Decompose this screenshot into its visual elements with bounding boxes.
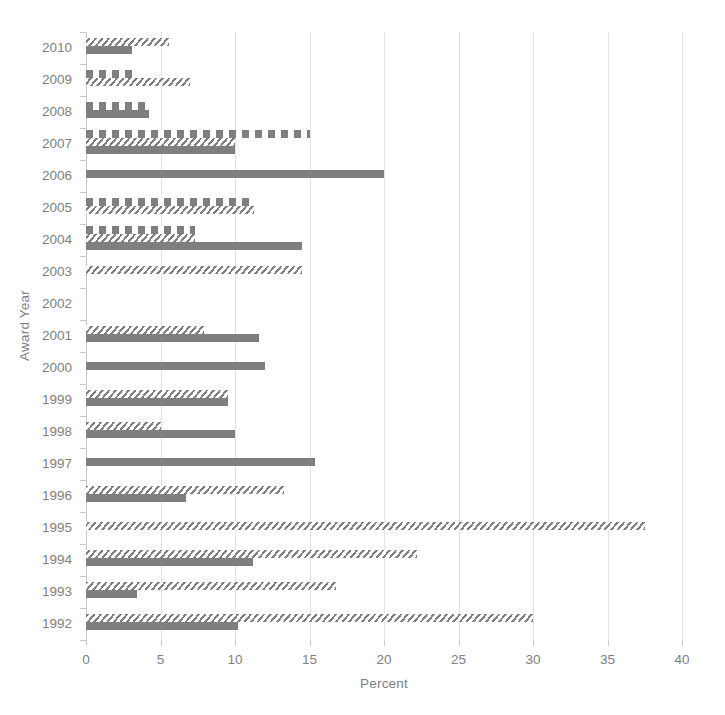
plot-area: 0510152025303540 20102009200820072006200…: [86, 32, 682, 640]
bar-2004-series-3: [86, 242, 302, 250]
y-tick-label-2006: 2006: [0, 169, 72, 183]
y-tick-label-1993: 1993: [0, 585, 72, 599]
bar-2010-series-3: [86, 46, 132, 54]
y-tick-label-2008: 2008: [0, 105, 72, 119]
cut-off-caption: [0, 700, 725, 715]
y-tick-mark: [80, 576, 86, 577]
y-tick-label-1995: 1995: [0, 521, 72, 535]
bar-1992-series-3: [86, 622, 238, 630]
x-tick-label: 20: [364, 652, 404, 667]
x-tick-label: 0: [66, 652, 106, 667]
bar-2006-series-3: [86, 170, 384, 178]
y-tick-label-2002: 2002: [0, 297, 72, 311]
x-tick-mark: [608, 640, 609, 646]
gridline: [682, 32, 683, 640]
bar-2000-series-3: [86, 362, 265, 370]
y-tick-mark: [80, 320, 86, 321]
bar-1998-series-3: [86, 430, 235, 438]
x-tick-mark: [161, 640, 162, 646]
y-tick-label-1997: 1997: [0, 457, 72, 471]
bar-2009-series-1: [86, 70, 138, 78]
y-tick-mark: [80, 32, 86, 33]
x-tick-label: 30: [513, 652, 553, 667]
y-tick-mark: [80, 608, 86, 609]
x-tick-mark: [310, 640, 311, 646]
x-tick-mark: [682, 640, 683, 646]
y-tick-mark: [80, 128, 86, 129]
bar-2004-series-2: [86, 234, 195, 242]
bar-1994-series-3: [86, 558, 253, 566]
y-tick-label-2000: 2000: [0, 361, 72, 375]
x-tick-label: 35: [588, 652, 628, 667]
y-tick-mark: [80, 384, 86, 385]
x-tick-label: 25: [439, 652, 479, 667]
y-tick-label-1994: 1994: [0, 553, 72, 567]
bar-1995-series-2: [86, 522, 645, 530]
bar-1996-series-3: [86, 494, 186, 502]
y-tick-mark: [80, 352, 86, 353]
bar-1993-series-2: [86, 582, 336, 590]
gridline: [608, 32, 609, 640]
gridline: [384, 32, 385, 640]
y-tick-mark: [80, 512, 86, 513]
y-tick-label-1999: 1999: [0, 393, 72, 407]
y-tick-label-1998: 1998: [0, 425, 72, 439]
bar-2007-series-2: [86, 138, 235, 146]
y-tick-label-2003: 2003: [0, 265, 72, 279]
y-tick-mark: [80, 544, 86, 545]
y-tick-label-2010: 2010: [0, 41, 72, 55]
y-tick-label-2004: 2004: [0, 233, 72, 247]
y-tick-mark: [80, 480, 86, 481]
x-tick-label: 10: [215, 652, 255, 667]
bar-1998-series-2: [86, 422, 161, 430]
bar-1999-series-2: [86, 390, 228, 398]
bar-1997-series-3: [86, 458, 315, 466]
y-tick-label-1992: 1992: [0, 617, 72, 631]
y-tick-label-2009: 2009: [0, 73, 72, 87]
bar-2007-series-3: [86, 146, 235, 154]
x-tick-mark: [86, 640, 87, 646]
bar-2010-series-2: [86, 38, 169, 46]
x-tick-mark: [384, 640, 385, 646]
y-tick-label-2005: 2005: [0, 201, 72, 215]
x-tick-mark: [459, 640, 460, 646]
bar-2003-series-2: [86, 266, 302, 274]
y-tick-label-1996: 1996: [0, 489, 72, 503]
bar-chart: Award Year Percent 0510152025303540 2010…: [0, 0, 725, 715]
y-tick-mark: [80, 192, 86, 193]
x-tick-mark: [235, 640, 236, 646]
x-tick-label: 15: [290, 652, 330, 667]
x-axis-title: Percent: [86, 676, 682, 691]
y-tick-mark: [80, 224, 86, 225]
y-tick-mark: [80, 448, 86, 449]
bar-1996-series-2: [86, 486, 284, 494]
y-tick-label-2001: 2001: [0, 329, 72, 343]
gridline: [310, 32, 311, 640]
bar-2007-series-1: [86, 130, 310, 138]
bar-2005-series-2: [86, 206, 254, 214]
y-tick-mark: [80, 256, 86, 257]
y-tick-mark: [80, 160, 86, 161]
bar-1992-series-2: [86, 614, 533, 622]
y-tick-mark: [80, 64, 86, 65]
gridline: [459, 32, 460, 640]
bar-1994-series-2: [86, 550, 417, 558]
gridline: [533, 32, 534, 640]
bar-2004-series-1: [86, 226, 195, 234]
bar-2008-series-3: [86, 110, 149, 118]
y-tick-mark: [80, 96, 86, 97]
y-tick-mark: [80, 640, 86, 641]
bar-2001-series-3: [86, 334, 259, 342]
bar-2001-series-2: [86, 326, 204, 334]
bar-1999-series-3: [86, 398, 228, 406]
y-tick-mark: [80, 416, 86, 417]
bar-2005-series-1: [86, 198, 254, 206]
x-tick-mark: [533, 640, 534, 646]
y-tick-mark: [80, 288, 86, 289]
bar-1993-series-3: [86, 590, 137, 598]
x-tick-label: 5: [141, 652, 181, 667]
bar-2009-series-2: [86, 78, 190, 86]
x-tick-label: 40: [662, 652, 702, 667]
bar-2008-series-1: [86, 102, 149, 110]
y-tick-label-2007: 2007: [0, 137, 72, 151]
